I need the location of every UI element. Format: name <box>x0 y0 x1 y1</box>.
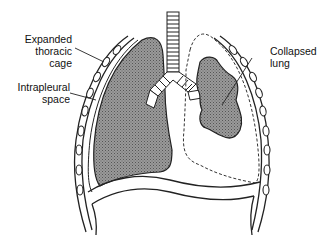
collapsed-right-lung <box>197 57 242 138</box>
diaphragm <box>88 176 260 235</box>
label-collapsed-lung: Collapsed lung <box>270 45 317 69</box>
label-intrapleural-space: Intrapleural space <box>5 81 70 105</box>
label-expanded-thoracic-cage: Expanded thoracic cage <box>10 33 72 69</box>
